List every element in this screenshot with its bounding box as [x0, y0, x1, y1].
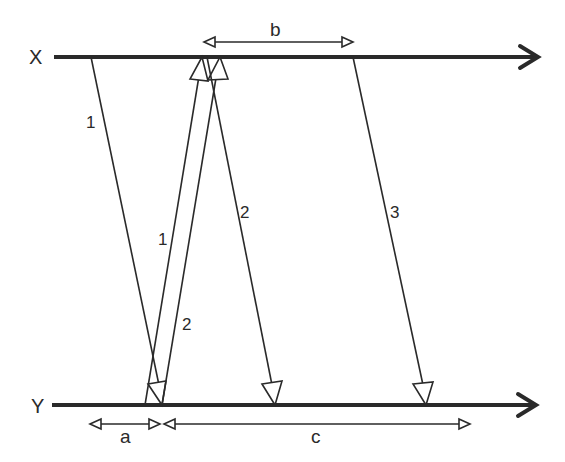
- interval-a-left-arrow-icon: [90, 419, 101, 429]
- signal-3-label: 3: [390, 203, 399, 222]
- axis-x: X: [29, 46, 538, 68]
- signal-2-down: 2: [207, 57, 282, 405]
- signal-1-up-arrowhead-icon: [190, 57, 208, 81]
- signal-2-up-label: 2: [182, 315, 191, 334]
- interval-b: b: [204, 19, 353, 47]
- axis-y: Y: [31, 394, 536, 417]
- signal-3-line: [353, 57, 423, 385]
- signal-1-up-label: 1: [158, 230, 167, 249]
- signal-1-up-line: [145, 76, 199, 405]
- signal-2-down-arrowhead-icon: [262, 381, 282, 405]
- interval-a-label: a: [120, 426, 131, 447]
- interval-c-left-arrow-icon: [164, 419, 175, 429]
- axis-x-label: X: [29, 46, 42, 68]
- interval-c-right-arrow-icon: [459, 419, 470, 429]
- interval-a-right-arrow-icon: [149, 419, 160, 429]
- signal-3-arrowhead-icon: [413, 382, 433, 405]
- interval-c-label: c: [311, 426, 321, 447]
- signal-1-up: 1: [145, 57, 208, 405]
- timing-diagram: X Y 1 1 2 2: [0, 0, 565, 462]
- signal-1-down-label: 1: [86, 113, 95, 132]
- signal-2-up-line: [162, 78, 216, 405]
- axis-y-label: Y: [31, 395, 44, 417]
- diagram-canvas: X Y 1 1 2 2: [0, 0, 565, 462]
- signal-2-down-label: 2: [240, 203, 249, 222]
- interval-c: c: [164, 419, 470, 447]
- signal-1-down-line: [91, 57, 160, 390]
- signal-3: 3: [353, 57, 433, 405]
- interval-b-right-arrow-icon: [342, 37, 353, 47]
- interval-a: a: [90, 419, 160, 447]
- interval-b-left-arrow-icon: [204, 37, 215, 47]
- interval-b-label: b: [270, 19, 281, 40]
